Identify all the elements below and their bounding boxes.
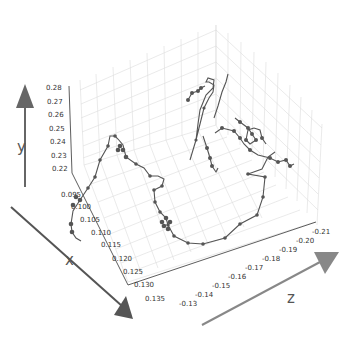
svg-text:0.115: 0.115	[101, 241, 121, 249]
z-axis-label: z	[287, 289, 295, 307]
svg-text:-0.19: -0.19	[279, 246, 297, 254]
y-axis-label: y	[17, 138, 26, 156]
svg-text:0.130: 0.130	[134, 281, 154, 289]
svg-text:-0.21: -0.21	[312, 228, 330, 236]
plot-canvas: 0.28 0.27 0.26 0.25 0.24 0.23 0.22 0.095…	[0, 0, 351, 338]
svg-text:0.27: 0.27	[47, 98, 63, 106]
svg-text:0.23: 0.23	[51, 152, 67, 160]
svg-text:-0.17: -0.17	[245, 264, 263, 272]
svg-text:-0.18: -0.18	[262, 255, 280, 263]
svg-text:0.105: 0.105	[80, 216, 100, 224]
svg-text:-0.13: -0.13	[179, 300, 197, 308]
svg-text:0.22: 0.22	[52, 165, 68, 173]
svg-text:-0.20: -0.20	[296, 237, 314, 245]
svg-text:0.25: 0.25	[49, 125, 65, 133]
svg-text:-0.16: -0.16	[228, 273, 247, 281]
svg-text:0.120: 0.120	[112, 255, 132, 263]
svg-text:-0.15: -0.15	[212, 282, 230, 290]
y-direction-arrow	[16, 84, 34, 187]
x-axis-label: x	[65, 251, 74, 269]
svg-text:-0.14: -0.14	[195, 291, 214, 299]
x-axis-ticks: 0.095 0.100 0.105 0.110 0.115 0.120 0.12…	[61, 191, 165, 303]
svg-text:0.125: 0.125	[123, 268, 143, 276]
plot-3d: 0.28 0.27 0.26 0.25 0.24 0.23 0.22 0.095…	[0, 0, 351, 338]
svg-text:0.26: 0.26	[48, 111, 64, 119]
svg-text:0.110: 0.110	[91, 229, 111, 237]
svg-text:0.135: 0.135	[145, 295, 165, 303]
y-axis-ticks: 0.28 0.27 0.26 0.25 0.24 0.23 0.22	[46, 84, 68, 173]
svg-text:0.24: 0.24	[50, 138, 66, 146]
svg-text:0.28: 0.28	[46, 84, 62, 92]
